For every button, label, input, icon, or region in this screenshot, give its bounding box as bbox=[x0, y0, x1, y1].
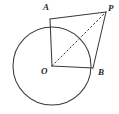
segment-PB bbox=[93, 12, 106, 68]
vertex-label-P: P bbox=[108, 4, 114, 13]
segment-OA bbox=[50, 19, 52, 66]
vertex-label-O: O bbox=[41, 67, 48, 76]
segment-BO bbox=[52, 66, 93, 68]
geometry-diagram bbox=[0, 0, 119, 114]
segment-AP bbox=[50, 12, 106, 19]
geometry-figure: A P B O bbox=[0, 0, 119, 114]
segment-OP-dashed bbox=[52, 12, 106, 66]
vertex-label-A: A bbox=[43, 3, 49, 12]
vertex-label-B: B bbox=[98, 68, 104, 77]
